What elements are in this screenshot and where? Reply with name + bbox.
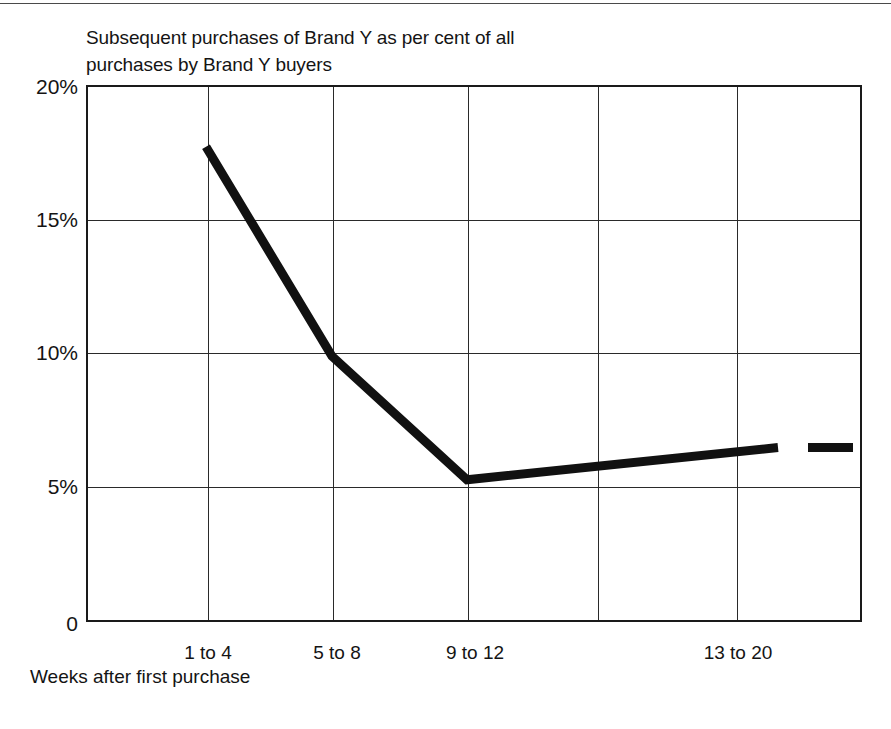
y-tick-label-20: 20% — [8, 76, 78, 97]
y-tick-label-15: 15% — [8, 209, 78, 230]
x-axis-title: Weeks after first purchase — [30, 667, 250, 686]
chart-page: Subsequent purchases of Brand Y as per c… — [0, 0, 891, 729]
x-tick-label-1-to-4: 1 to 4 — [184, 643, 232, 662]
x-tick-label-9-to-12: 9 to 12 — [446, 643, 504, 662]
x-tick-label-13-to-20: 13 to 20 — [704, 643, 773, 662]
y-tick-label-5: 5% — [8, 476, 78, 497]
y-axis-labels: 20% 15% 10% 5% 0 — [0, 0, 891, 729]
y-tick-label-0: 0 — [8, 613, 78, 634]
y-tick-label-10: 10% — [8, 342, 78, 363]
x-tick-label-5-to-8: 5 to 8 — [313, 643, 361, 662]
